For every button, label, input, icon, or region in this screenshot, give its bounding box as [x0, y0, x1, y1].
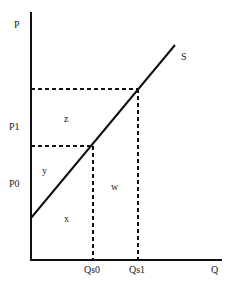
area-label-y: y	[42, 165, 47, 176]
price-label-p1: P1	[9, 121, 20, 132]
area-label-x: x	[64, 213, 69, 224]
quantity-label-qs1: Qs1	[129, 264, 145, 275]
supply-diagram: P Q S P1 P0 Qs0 Qs1 z y w x	[0, 0, 234, 284]
y-axis-label: P	[14, 19, 20, 30]
area-label-w: w	[111, 181, 119, 192]
area-label-z: z	[64, 113, 69, 124]
quantity-label-qs0: Qs0	[84, 264, 100, 275]
supply-label: S	[181, 51, 187, 62]
supply-curve	[31, 45, 175, 218]
x-axis-label: Q	[211, 264, 219, 275]
price-label-p0: P0	[9, 178, 20, 189]
